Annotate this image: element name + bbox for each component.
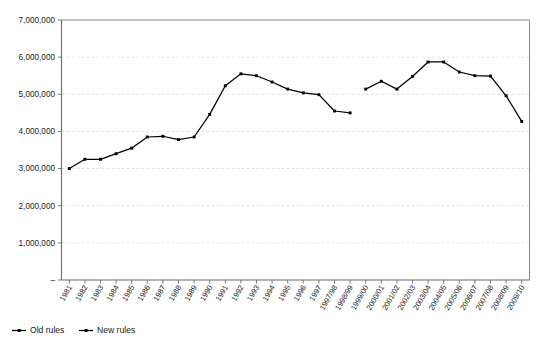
y-axis-tick-label: 4,000,000 [19,127,56,136]
data-point-marker [458,71,461,74]
series-new-rules [364,61,523,123]
legend-item-label: Old rules [30,325,64,335]
x-axis-tick-label: 1994 [261,284,277,303]
x-axis-tick-label: 1988 [167,284,183,303]
data-point-marker [489,75,492,78]
data-point-marker [286,88,289,91]
data-point-marker [193,136,196,139]
data-point-marker [224,84,227,87]
data-point-marker [161,135,164,138]
data-point-marker [177,138,180,141]
legend-marker-swatch [18,329,21,332]
data-point-marker [115,152,118,155]
x-axis-tick-label: 1990 [198,284,214,303]
data-point-marker [208,113,211,116]
y-axis-tick-label: 2,000,000 [19,202,56,211]
data-point-marker [442,61,445,64]
data-point-marker [255,74,258,77]
data-point-marker [364,88,367,91]
y-axis-tick-label: 1,000,000 [19,239,56,248]
data-point-marker [380,80,383,83]
x-axis-tick-label: 1989 [183,284,199,303]
data-point-marker [349,111,352,114]
data-point-marker [505,94,508,97]
data-point-marker [302,91,305,94]
x-axis-tick-label: 1986 [136,284,152,303]
x-axis-labels: 1981198219831984198519861987198819891990… [58,283,527,311]
data-point-marker [239,72,242,75]
legend-item-label: New rules [97,325,135,335]
data-point-marker [520,120,523,123]
data-point-marker [146,136,149,139]
x-axis-tick-label: 1992 [229,284,245,303]
data-point-marker [317,93,320,96]
y-axis-tick-label: 3,000,000 [19,164,56,173]
data-point-marker [473,74,476,77]
plot-frame [62,20,530,280]
data-point-marker [411,75,414,78]
x-axis-tick-label: 1983 [89,284,105,303]
x-axis-tick-label: 1985 [120,284,136,303]
series-old-rules [68,72,352,170]
x-axis-tick-label: 1993 [245,284,261,303]
data-point-marker [333,110,336,113]
gridlines-group [62,57,530,243]
data-point-marker [68,167,71,170]
x-axis-tick-label: 1996 [292,284,308,303]
y-axis-labels: 7,000,0006,000,0005,000,0004,000,0003,00… [19,16,56,285]
x-axis-tick-label: 1981 [58,284,74,303]
x-axis-tick-label: 1987 [151,284,167,303]
data-point-marker [271,81,274,84]
line-chart: 7,000,0006,000,0005,000,0004,000,0003,00… [0,0,542,349]
data-point-marker [83,158,86,161]
x-axis-tick-label: 1984 [105,284,121,303]
y-axis-tick-label: 5,000,000 [19,90,56,99]
chart-legend: Old rulesNew rules [12,325,135,335]
x-axis-tick-label: 1995 [276,284,292,303]
data-point-marker [395,88,398,91]
x-axis-tick-label: 1982 [73,284,89,303]
x-axis-tick-label: 1991 [214,284,230,303]
y-axis-tick-label: 7,000,000 [19,16,56,25]
y-axis-tick-label: 6,000,000 [19,53,56,62]
chart-container: 7,000,0006,000,0005,000,0004,000,0003,00… [0,0,542,349]
y-axis-tick-label: – [50,276,55,285]
data-point-marker [99,158,102,161]
legend-marker-swatch [85,329,88,332]
data-point-marker [130,147,133,150]
data-point-marker [427,61,430,64]
